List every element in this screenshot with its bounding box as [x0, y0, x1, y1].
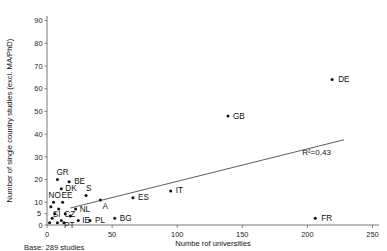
data-point-GB: GB	[226, 112, 245, 121]
y-tick-label: 30	[34, 153, 42, 162]
point-marker	[77, 219, 80, 222]
point-label: IT	[176, 186, 183, 195]
x-tick-label: 250	[366, 230, 378, 239]
x-tick-label: 150	[236, 230, 248, 239]
y-tick-label: 40	[34, 130, 42, 139]
point-marker	[85, 194, 88, 197]
y-tick-label: 0	[38, 221, 42, 230]
point-marker	[226, 114, 229, 117]
point-label: ES	[138, 193, 149, 202]
point-label: GB	[233, 112, 245, 121]
point-marker	[131, 196, 134, 199]
point-label: S	[86, 184, 92, 193]
data-point-GR: GR	[56, 168, 69, 182]
y-tick-label: 80	[34, 39, 42, 48]
point-marker	[69, 214, 72, 217]
data-point	[57, 208, 60, 211]
point-label: NO	[49, 191, 61, 200]
x-tick-label: 50	[108, 230, 116, 239]
point-marker	[331, 78, 334, 81]
data-point	[69, 214, 72, 217]
data-point-CZ: CZ	[64, 210, 75, 219]
scatter-chart: 05102030405060708090 050100150200250 DEG…	[0, 0, 387, 251]
y-tick-label: 50	[34, 107, 42, 116]
y-axis-title: Number of single country studies (excl. …	[5, 38, 14, 202]
data-point-FR: FR	[314, 214, 333, 223]
base-note: Base: 289 studies	[24, 243, 84, 251]
y-tick-label: 5	[37, 209, 41, 218]
top-artifact-text	[6, 1, 9, 7]
top-artifact-strip	[6, 1, 9, 7]
point-marker	[169, 189, 172, 192]
data-point	[51, 217, 54, 220]
x-tick-label: 100	[171, 230, 183, 239]
data-point-ES: ES	[131, 193, 149, 202]
point-label: IE	[82, 216, 90, 225]
point-label: CZ	[64, 210, 75, 219]
point-marker	[314, 217, 317, 220]
point-marker	[61, 201, 64, 204]
point-label: PT	[64, 221, 74, 230]
point-label: DE	[338, 75, 350, 84]
point-marker	[113, 217, 116, 220]
data-point	[48, 221, 51, 224]
data-point-S: S	[85, 184, 93, 197]
data-point-PL: PL	[88, 216, 105, 225]
point-marker	[48, 221, 51, 224]
chart-caption-wrap: Base: 289 studies	[24, 236, 84, 251]
chart-annotations: R²=0,43	[302, 148, 331, 157]
data-point	[60, 219, 63, 222]
point-label: BG	[120, 214, 132, 223]
point-marker	[60, 187, 63, 190]
point-marker	[51, 217, 54, 220]
point-label: PL	[95, 216, 105, 225]
data-point-BG: BG	[113, 214, 131, 223]
point-label: SI	[53, 210, 61, 219]
data-point-SI: SI	[53, 210, 61, 219]
point-marker	[52, 201, 55, 204]
point-marker	[68, 180, 71, 183]
data-point-NO: NO	[49, 191, 61, 204]
data-point	[56, 221, 59, 224]
point-label: EE	[62, 191, 73, 200]
y-tick-label: 20	[34, 175, 42, 184]
point-label: FR	[321, 214, 332, 223]
data-point-IT: IT	[169, 186, 183, 195]
point-label: GR	[56, 168, 68, 177]
data-point-PT: PT	[62, 221, 74, 230]
point-label: A	[102, 202, 108, 211]
y-axis: 05102030405060708090	[34, 16, 47, 230]
data-point-A: A	[99, 199, 109, 212]
y-tick-label: 90	[34, 16, 42, 25]
point-marker	[49, 205, 52, 208]
r-squared-label: R²=0,43	[302, 148, 331, 157]
data-point-DE: DE	[331, 75, 350, 84]
x-axis: 050100150200250	[45, 225, 379, 239]
data-point-IE: IE	[77, 216, 91, 225]
point-marker	[57, 208, 60, 211]
y-tick-label: 10	[34, 198, 42, 207]
data-point-NL: NL	[74, 205, 90, 214]
point-label: NL	[80, 205, 91, 214]
y-tick-label: 60	[34, 84, 42, 93]
point-marker	[56, 178, 59, 181]
chart-canvas: 05102030405060708090 050100150200250 DEG…	[0, 0, 387, 251]
point-marker	[56, 221, 59, 224]
y-tick-label: 70	[34, 62, 42, 71]
data-point	[49, 205, 52, 208]
x-tick-label: 200	[301, 230, 313, 239]
x-axis-title: Numbe rof universities	[175, 239, 251, 248]
data-point-EE: EE	[61, 191, 73, 204]
point-marker	[60, 219, 63, 222]
